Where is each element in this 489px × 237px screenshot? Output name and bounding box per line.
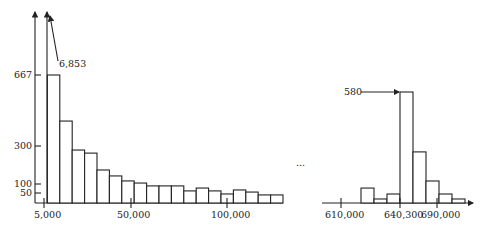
x-tick-610000: 610,000 [325, 209, 364, 220]
histogram-bar [134, 183, 146, 203]
histogram-bar [233, 190, 245, 203]
histogram-bar [72, 150, 84, 203]
x-tick-50000: 50,000 [117, 209, 150, 220]
histogram-bar [246, 192, 258, 203]
histogram-bar [400, 92, 413, 203]
histogram-bar [258, 195, 270, 203]
histogram-bar [35, 12, 47, 203]
histogram-figure: 6,853 667 300 100 50 5,000 50,000 100,00… [0, 0, 489, 237]
y-tick-667: 667 [14, 69, 32, 80]
histogram-bar [439, 194, 452, 203]
histogram-bar [60, 121, 72, 203]
histogram-bar [361, 188, 374, 203]
label-6853: 6,853 [59, 58, 86, 69]
left-bars [35, 12, 283, 203]
histogram-bar [184, 191, 196, 203]
x-tick-640300: 640,300 [384, 209, 423, 220]
annotation-arrow [50, 16, 58, 61]
x-tick-690000: 690,000 [421, 209, 460, 220]
histogram-bar [196, 188, 208, 203]
histogram-bar [159, 186, 171, 203]
y-tick-50: 50 [20, 187, 32, 198]
y-tick-300: 300 [14, 140, 32, 151]
histogram-bar [209, 191, 221, 203]
histogram-bar [147, 186, 159, 203]
histogram-bar [374, 199, 387, 203]
label-580: 580 [344, 86, 362, 97]
histogram-bar [413, 152, 426, 203]
histogram-bar [452, 199, 465, 203]
histogram-bar [387, 194, 400, 203]
histogram-bar [85, 153, 97, 203]
histogram-bar [122, 181, 134, 203]
histogram-bar [171, 186, 183, 203]
histogram-bar [97, 170, 109, 203]
histogram-bar [109, 176, 121, 203]
x-tick-5000: 5,000 [34, 209, 61, 220]
right-bars [361, 92, 465, 203]
left-histogram [35, 12, 283, 208]
ellipsis: ... [296, 157, 305, 168]
histogram-bar [271, 195, 283, 203]
x-tick-100000: 100,000 [211, 209, 250, 220]
right-histogram [322, 92, 473, 208]
histogram-bar [47, 75, 59, 203]
